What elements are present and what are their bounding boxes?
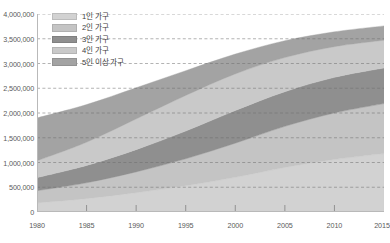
legend-item[interactable]: 2인 가구: [52, 23, 124, 32]
x-tick-label: 1980: [29, 221, 45, 230]
legend-label: 3인 가구: [82, 35, 108, 44]
x-tick-label: 2005: [277, 221, 293, 230]
x-tick-label: 1985: [79, 221, 95, 230]
legend-swatch-2person: [52, 24, 77, 32]
x-tick-label: 1990: [128, 221, 144, 230]
legend-label: 5인 이상 가구: [82, 58, 124, 67]
legend-label: 4인 가구: [82, 46, 108, 55]
legend-swatch-5plus: [52, 58, 77, 66]
chart-legend: 1인 가구 2인 가구 3인 가구 4인 가구 5인 이상 가구: [52, 12, 124, 67]
legend-swatch-1person: [52, 13, 77, 21]
x-tick-label: 2000: [228, 221, 244, 230]
legend-swatch-4person: [52, 47, 77, 55]
legend-label: 1인 가구: [82, 12, 108, 21]
legend-label: 2인 가구: [82, 23, 108, 32]
legend-item[interactable]: 4인 가구: [52, 46, 124, 55]
x-tick-label: 2010: [327, 221, 343, 230]
legend-swatch-3person: [52, 36, 77, 44]
legend-item[interactable]: 1인 가구: [52, 12, 124, 21]
legend-item[interactable]: 5인 이상 가구: [52, 58, 124, 67]
x-tick-label: 1995: [178, 221, 194, 230]
x-tick-label: 2015: [374, 221, 390, 230]
legend-item[interactable]: 3인 가구: [52, 35, 124, 44]
